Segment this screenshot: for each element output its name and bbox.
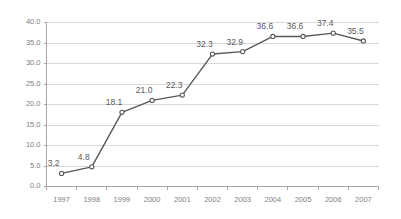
y-axis-tick-labels: 0.05.010.015.020.025.030.035.040.0 [26, 17, 41, 190]
data-point-label: 37.4 [317, 18, 334, 28]
data-point-marker[interactable] [241, 50, 245, 54]
data-point-label: 36.6 [287, 21, 304, 31]
y-tick-label: 40.0 [26, 17, 41, 26]
x-tick-marks-group [47, 187, 379, 191]
data-point-label: 4.8 [78, 152, 90, 162]
line-chart: 0.05.010.015.020.025.030.035.040.0 19971… [0, 0, 401, 219]
data-point-label: 21.0 [136, 85, 153, 95]
data-point-marker[interactable] [180, 93, 184, 97]
x-tick-label: 2001 [174, 195, 191, 204]
data-point-marker[interactable] [301, 34, 305, 38]
y-tick-label: 15.0 [26, 120, 41, 129]
data-point-marker[interactable] [210, 52, 214, 56]
data-point-label: 35.5 [347, 26, 364, 36]
x-tick-label: 1997 [53, 195, 70, 204]
data-point-marker[interactable] [271, 34, 275, 38]
y-tick-label: 20.0 [26, 99, 41, 108]
data-point-label: 3.2 [48, 158, 60, 168]
x-tick-label: 2002 [204, 195, 221, 204]
data-point-label: 18.1 [106, 97, 123, 107]
data-point-label: 32.9 [226, 37, 243, 47]
data-point-marker[interactable] [120, 110, 124, 114]
chart-canvas: 0.05.010.015.020.025.030.035.040.0 19971… [0, 0, 401, 219]
data-point-marker[interactable] [361, 39, 365, 43]
data-point-label: 22.3 [166, 80, 183, 90]
data-point-marker[interactable] [150, 98, 154, 102]
data-point-marker[interactable] [90, 165, 94, 169]
x-tick-label: 2004 [265, 195, 282, 204]
x-tick-label: 2007 [355, 195, 372, 204]
data-point-marker[interactable] [59, 171, 63, 175]
y-tick-label: 25.0 [26, 79, 41, 88]
y-tick-label: 30.0 [26, 58, 41, 67]
x-tick-label: 1998 [83, 195, 100, 204]
x-tick-label: 2006 [325, 195, 342, 204]
x-axis-tick-labels: 1997199819992000200120022003200420052006… [53, 195, 372, 204]
data-point-label: 36.6 [257, 21, 274, 31]
data-point-label: 32.3 [196, 39, 213, 49]
y-tick-label: 10.0 [26, 140, 41, 149]
x-tick-label: 2000 [144, 195, 161, 204]
y-tick-label: 35.0 [26, 38, 41, 47]
x-tick-label: 2003 [234, 195, 251, 204]
y-tick-label: 0.0 [30, 181, 40, 190]
y-tick-label: 5.0 [30, 161, 40, 170]
data-point-marker[interactable] [331, 31, 335, 35]
x-tick-label: 1999 [114, 195, 131, 204]
x-tick-label: 2005 [295, 195, 312, 204]
